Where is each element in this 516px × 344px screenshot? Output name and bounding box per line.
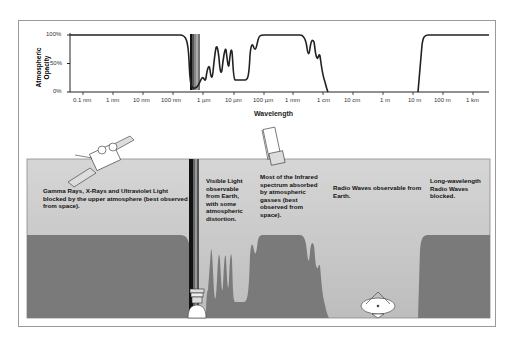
x-tick-label: 100 nm [161,97,181,103]
opacity-chart [0,0,516,344]
opaque-region-left [27,235,190,318]
label-radio-waves: Radio Waves observable from Earth. [333,184,423,199]
chart-axes [67,33,489,92]
y-tick-label: 0% [53,88,62,94]
x-tick-label: 1 nm [106,97,119,103]
opacity-curve-longwave [418,35,489,92]
x-tick-label: 1 km [466,97,479,103]
y-tick-label: 100% [46,31,61,37]
label-long-wavelength-radio: Long-wavelength Radio Waves blocked. [430,177,490,200]
x-tick-label: 10 nm [133,97,150,103]
opaque-region-right [418,235,490,318]
label-visible-light: Visible Light observable from Earth, wit… [206,177,252,223]
label-infrared: Most of the Infrared spectrum absorbed b… [260,173,320,219]
x-tick-label: 10 m [408,97,421,103]
x-tick-label: 100 µm [253,97,273,103]
x-tick-label: 1 µm [197,97,210,103]
x-tick-label: 1 cm [317,97,330,103]
x-tick-label: 10 µm [225,97,242,103]
x-tick-label: 100 m [434,97,451,103]
x-tick-label: 0.1 nm [73,97,91,103]
x-tick-label: 1 mm [285,97,300,103]
y-tick-label: 50% [50,60,62,66]
label-gamma-xray-uv: Gamma Rays, X-Rays and Ultraviolet Light… [43,187,193,210]
visible-band-top [190,34,200,90]
x-axis-label: Wavelength [254,110,293,117]
x-tick-label: 10 cm [344,97,360,103]
x-tick-label: 1 m [380,97,390,103]
